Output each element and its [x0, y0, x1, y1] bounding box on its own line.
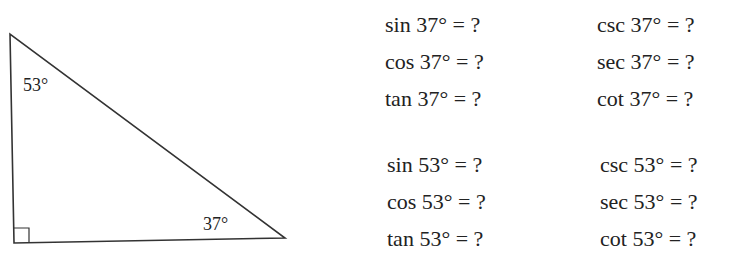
equation-sec-53: sec 53° = ?: [600, 191, 698, 213]
right-angle-marker: [14, 228, 29, 243]
equation-tan-37: tan 37° = ?: [385, 88, 481, 110]
equation-cos-37: cos 37° = ?: [385, 51, 484, 73]
equation-cot-37: cot 37° = ?: [597, 88, 693, 110]
equation-sin-37: sin 37° = ?: [385, 14, 480, 36]
equation-tan-53: tan 53° = ?: [387, 228, 483, 250]
angle-label-53: 53°: [23, 76, 48, 94]
equation-csc-37: csc 37° = ?: [597, 14, 695, 36]
equation-sec-37: sec 37° = ?: [597, 51, 695, 73]
equation-sin-53: sin 53° = ?: [387, 154, 482, 176]
equation-cos-53: cos 53° = ?: [387, 191, 486, 213]
equation-csc-53: csc 53° = ?: [600, 154, 698, 176]
angle-label-37: 37°: [203, 215, 228, 233]
equation-cot-53: cot 53° = ?: [600, 228, 696, 250]
right-triangle: [0, 0, 300, 260]
triangle-outline: [10, 34, 285, 243]
